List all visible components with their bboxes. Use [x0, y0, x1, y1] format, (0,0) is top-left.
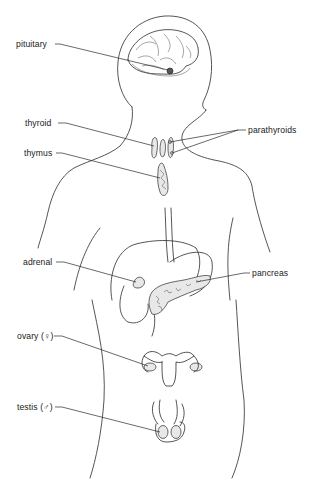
- label-thyroid: thyroid: [25, 118, 52, 128]
- ovary-left: [144, 363, 156, 371]
- right-body-outline: [232, 300, 244, 478]
- thymus-gland: [158, 163, 168, 195]
- spermatic-cords: [152, 400, 184, 426]
- pituitary-gland: [167, 68, 173, 74]
- leader-parathyroids-lower: [172, 130, 238, 153]
- leader-adrenal: [56, 262, 136, 282]
- body-illustration: [0, 0, 318, 498]
- brain-folds: [132, 34, 191, 76]
- intestine-outline: [120, 286, 155, 336]
- leader-ovary: [54, 336, 148, 366]
- right-arm-inner: [228, 218, 233, 300]
- endocrine-diagram: pituitary thyroid parathyroids thymus ad…: [0, 0, 318, 498]
- left-body-outline: [90, 300, 104, 478]
- label-parathyroids: parathyroids: [248, 125, 297, 135]
- label-pituitary: pituitary: [16, 39, 47, 49]
- brain-outline: [128, 30, 198, 75]
- label-thymus: thymus: [24, 148, 52, 158]
- testis-right: [171, 426, 181, 439]
- leader-thymus: [56, 153, 160, 178]
- ovary-right: [190, 363, 202, 371]
- esophagus: [165, 208, 174, 262]
- leader-testis: [55, 407, 160, 432]
- label-ovary: ovary (♀): [17, 331, 53, 341]
- left-arm-inner: [74, 228, 100, 290]
- label-testis: testis (♂): [17, 402, 53, 412]
- label-adrenal: adrenal: [23, 257, 52, 267]
- adrenal-gland: [133, 277, 144, 288]
- label-pancreas: pancreas: [252, 268, 288, 278]
- leader-thyroid: [58, 123, 154, 146]
